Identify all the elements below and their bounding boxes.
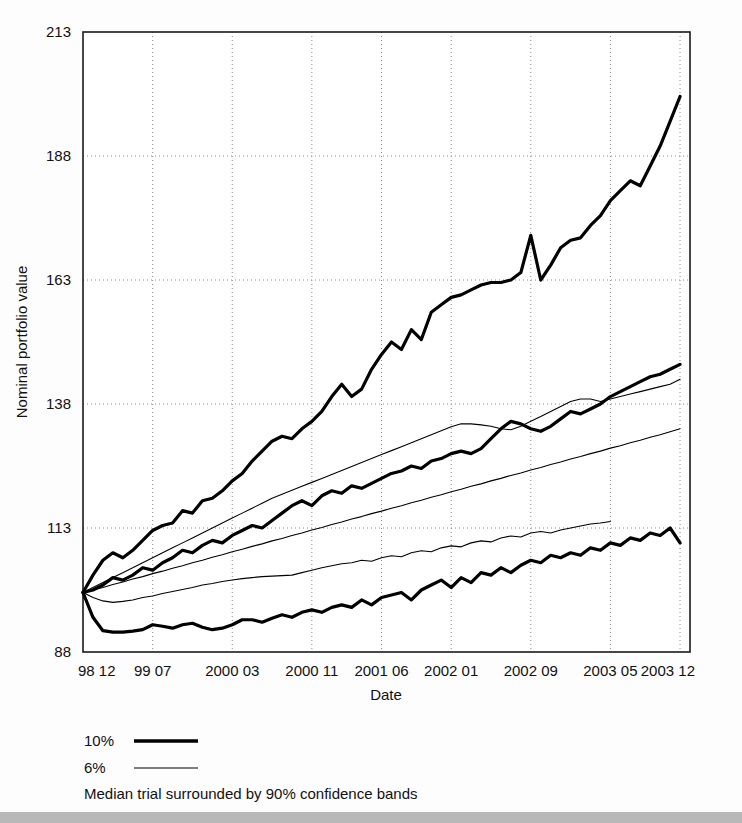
- y-tick-label: 213: [46, 23, 71, 40]
- legend-label-6pct: 6%: [84, 759, 106, 776]
- y-tick-label: 188: [46, 147, 71, 164]
- chart-figure: 88113138163188213 98 1299 072000 032000 …: [0, 0, 742, 823]
- y-tick-label: 113: [47, 519, 71, 536]
- x-tick-label: 2002 09: [504, 662, 558, 679]
- x-tick-label: 2003 05: [583, 662, 637, 679]
- y-axis-title: Nominal portfolio value: [13, 266, 30, 419]
- x-axis-title: Date: [370, 686, 402, 703]
- x-tick-label: 2000 11: [285, 662, 338, 679]
- y-tick-label: 138: [46, 395, 71, 412]
- plot-background: [83, 32, 690, 652]
- chart-legend: 10% 6% Median trial surrounded by 90% co…: [84, 732, 418, 802]
- y-axis-tick-labels: 88113138163188213: [46, 23, 71, 660]
- y-tick-label: 88: [54, 643, 71, 660]
- x-tick-label: 2003 12: [641, 662, 695, 679]
- x-tick-label: 2001 06: [354, 662, 408, 679]
- x-tick-label: 2002 01: [424, 662, 478, 679]
- x-tick-label: 2000 03: [205, 662, 259, 679]
- legend-caption: Median trial surrounded by 90% confidenc…: [84, 785, 418, 802]
- page-edge-strip: [0, 812, 742, 823]
- legend-label-10pct: 10%: [84, 732, 114, 749]
- x-axis-tick-labels: 98 1299 072000 032000 112001 062002 0120…: [78, 662, 695, 679]
- x-tick-label: 98 12: [78, 662, 116, 679]
- y-tick-label: 163: [46, 271, 71, 288]
- portfolio-value-line-chart: 88113138163188213 98 1299 072000 032000 …: [0, 0, 742, 823]
- x-tick-label: 99 07: [134, 662, 172, 679]
